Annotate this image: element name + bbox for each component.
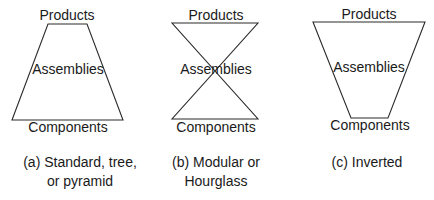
diagram-a-caption-line-2: or pyramid xyxy=(23,172,137,191)
diagram-c-caption-line-1: (c) Inverted xyxy=(332,153,403,172)
diagram-a-bottom-label: Components xyxy=(28,120,107,135)
diagram-a-top-label: Products xyxy=(39,8,94,23)
diagram-c-middle-label: Assemblies xyxy=(333,60,405,75)
diagram-b-top-label: Products xyxy=(188,8,243,23)
diagram-b-caption: (b) Modular or Hourglass xyxy=(172,153,260,191)
diagram-c-caption: (c) Inverted xyxy=(332,153,403,172)
diagram-a-caption: (a) Standard, tree, or pyramid xyxy=(23,153,137,191)
diagram-b-middle-label: Assemblies xyxy=(180,62,252,77)
diagram-a-middle-label: Assemblies xyxy=(32,62,104,77)
diagram-c-top-label: Products xyxy=(341,7,396,22)
diagram-b-caption-line-1: (b) Modular or xyxy=(172,153,260,172)
diagram-c-bottom-label: Components xyxy=(330,118,409,133)
diagram-b-caption-line-2: Hourglass xyxy=(172,172,260,191)
diagram-b-bottom-label: Components xyxy=(176,120,255,135)
diagram-a-caption-line-1: (a) Standard, tree, xyxy=(23,153,137,172)
